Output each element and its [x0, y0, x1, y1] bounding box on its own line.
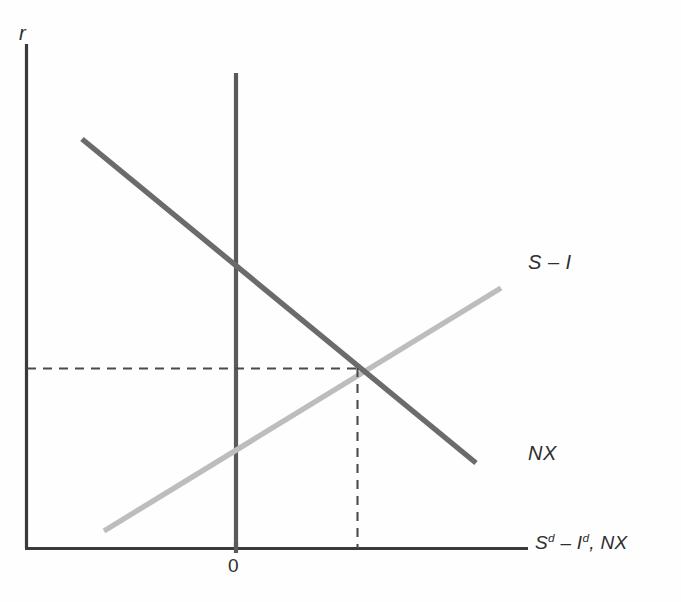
figure-root: r S – I NX Sd – Id, NX 0 [0, 0, 681, 602]
x-axis-label-sup-d1: d [548, 531, 555, 544]
x-axis-label: Sd – Id, NX [535, 533, 627, 552]
x-axis-label-nx: , NX [589, 532, 627, 553]
si-curve [104, 288, 501, 531]
chart-canvas [0, 0, 681, 602]
y-axis-label: r [19, 23, 26, 43]
nx-curve-label: NX [528, 443, 557, 463]
origin-label: 0 [228, 556, 239, 575]
x-axis-label-minus-i: – I [555, 532, 583, 553]
si-curve-label: S – I [528, 252, 572, 272]
x-axis-label-s: S [535, 532, 548, 553]
nx-curve [82, 139, 476, 463]
